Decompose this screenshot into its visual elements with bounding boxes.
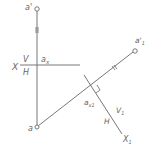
label-a-x1: ax1 xyxy=(84,98,95,108)
label-x1: X1 xyxy=(122,135,132,145)
point-a-prime-1 xyxy=(133,49,137,53)
label-a: a xyxy=(28,124,33,133)
right-angle-mark xyxy=(96,85,100,93)
label-a-prime-1: a'1 xyxy=(135,36,145,46)
projection-diagram: a' X V H ax a a'1 ax1 V1 H X1 xyxy=(0,0,151,158)
label-a-x: ax xyxy=(41,55,50,65)
equal-length-ticks-oblique xyxy=(112,65,117,70)
label-x: X xyxy=(11,62,19,72)
point-a-prime xyxy=(35,7,39,11)
point-a xyxy=(35,125,39,129)
label-a-prime: a' xyxy=(25,3,32,12)
label-v1: V1 xyxy=(116,106,124,116)
label-h-new: H xyxy=(104,117,110,126)
label-v: V xyxy=(23,55,29,64)
label-h: H xyxy=(23,68,29,77)
